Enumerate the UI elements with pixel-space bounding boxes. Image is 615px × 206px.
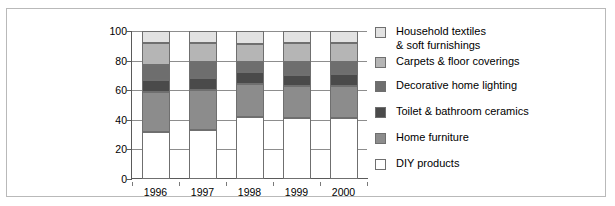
bar-segment[interactable] (283, 62, 311, 75)
bar-segment[interactable] (283, 118, 311, 179)
x-tick-label-1997: 1997 (180, 186, 226, 198)
legend-swatch (375, 107, 386, 118)
plot-area (132, 31, 367, 179)
bar-segment[interactable] (142, 80, 170, 92)
plot-area-wrapper: 020406080100 19961997199819992000 (7, 9, 372, 198)
legend-label: Carpets & floor coverings (396, 55, 520, 69)
bar-segment[interactable] (330, 31, 358, 43)
bar-segment[interactable] (142, 132, 170, 179)
x-tick-label-2000: 2000 (321, 186, 367, 198)
legend-swatch (375, 133, 386, 144)
bar-segment[interactable] (142, 43, 170, 65)
bar-segment[interactable] (189, 78, 217, 90)
bar-segment[interactable] (330, 86, 358, 119)
x-tick-mark (179, 182, 180, 186)
bar-segment[interactable] (236, 62, 264, 72)
y-tick-mark-40 (126, 120, 131, 121)
bar-segment[interactable] (189, 90, 217, 130)
x-tick-mark (132, 182, 133, 186)
y-tick-mark-20 (126, 149, 131, 150)
y-axis-tick-labels: 020406080100 (99, 31, 127, 179)
bar-segment[interactable] (283, 86, 311, 119)
bar-segment[interactable] (189, 31, 217, 43)
legend-label: Toilet & bathroom ceramics (396, 105, 529, 119)
x-tick-mark (320, 182, 321, 186)
y-tick-mark-60 (126, 90, 131, 91)
bar-segment[interactable] (236, 31, 264, 44)
bar-1998[interactable] (236, 31, 264, 179)
bar-segment[interactable] (189, 62, 217, 78)
bar-segment[interactable] (330, 62, 358, 74)
bar-segment[interactable] (142, 65, 170, 80)
bar-segment[interactable] (283, 75, 311, 85)
bar-segment[interactable] (283, 43, 311, 62)
bar-segment[interactable] (189, 130, 217, 179)
chart-legend: Household textiles & soft furnishingsCar… (375, 27, 605, 192)
legend-label: Home furniture (396, 131, 469, 145)
bar-1996[interactable] (142, 31, 170, 179)
legend-swatch (375, 57, 386, 68)
bar-1999[interactable] (283, 31, 311, 179)
bar-segment[interactable] (142, 31, 170, 43)
legend-label: DIY products (396, 157, 459, 171)
bar-segment[interactable] (330, 43, 358, 62)
bar-1997[interactable] (189, 31, 217, 179)
x-tick-label-1996: 1996 (133, 186, 179, 198)
x-tick-mark (226, 182, 227, 186)
bar-segment[interactable] (236, 84, 264, 117)
legend-label: Household textiles & soft furnishings (396, 25, 486, 52)
x-tick-mark (367, 182, 368, 186)
bar-segment[interactable] (330, 74, 358, 86)
figure-frame: 020406080100 19961997199819992000 Househ… (6, 8, 606, 197)
x-tick-label-1999: 1999 (274, 186, 320, 198)
legend-swatch (375, 81, 386, 92)
y-tick-mark-0 (126, 179, 131, 180)
y-tick-label-100: 100 (109, 26, 127, 36)
page-top-edge (0, 0, 615, 6)
bar-segment[interactable] (189, 43, 217, 62)
y-tick-mark-80 (126, 61, 131, 62)
bar-segment[interactable] (330, 118, 358, 179)
bar-segment[interactable] (142, 92, 170, 132)
x-tick-mark (273, 182, 274, 186)
x-axis-tick-labels: 19961997199819992000 (132, 182, 367, 198)
y-tick-mark-100 (126, 31, 131, 32)
bar-segment[interactable] (236, 117, 264, 179)
bar-segment[interactable] (283, 31, 311, 43)
x-tick-label-1998: 1998 (227, 186, 273, 198)
legend-swatch (375, 27, 386, 38)
legend-swatch (375, 159, 386, 170)
legend-label: Decorative home lighting (396, 79, 517, 93)
bar-2000[interactable] (330, 31, 358, 179)
chart-page: 020406080100 19961997199819992000 Househ… (0, 0, 615, 206)
bar-segment[interactable] (236, 44, 264, 62)
bar-segment[interactable] (236, 72, 264, 84)
